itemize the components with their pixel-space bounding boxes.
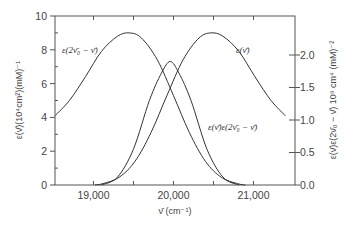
y-left-axis-title: ε(ν̄)(10⁴cm²)(mM)⁻¹ xyxy=(14,61,24,139)
xtick-label: 20,000 xyxy=(157,189,189,201)
annotation-mirror-absorption: ε(2ν̄₀ − ν̄) xyxy=(62,45,98,55)
chart-canvas: 0 2 4 6 8 10 0.0 0.5 1.0 1.5 2.0 19,000 … xyxy=(0,0,348,227)
y-left-ticks xyxy=(50,16,58,185)
ytick-right-label: 1.5 xyxy=(300,81,315,93)
ytick-label: 6 xyxy=(41,78,47,90)
ytick-right-label: 0.0 xyxy=(300,179,315,191)
y-left-tick-labels: 0 2 4 6 8 10 xyxy=(35,10,47,191)
x-tick-labels: 19,000 20,000 21,000 xyxy=(77,189,269,201)
series-absorption-curve xyxy=(95,33,285,185)
y-right-axis-title: ε(ν̄)ε(2ν̄₀ − ν̄) 10⁹ cm⁴ (mM)⁻² xyxy=(328,41,338,160)
ytick-label: 10 xyxy=(35,10,47,22)
xtick-label: 19,000 xyxy=(77,189,109,201)
annotation-absorption: ε(ν̄) xyxy=(236,45,250,55)
ytick-label: 8 xyxy=(41,44,47,56)
plot-frame xyxy=(55,16,295,185)
ytick-right-label: 1.0 xyxy=(300,114,315,126)
ytick-label: 0 xyxy=(41,179,47,191)
y-right-tick-labels: 0.0 0.5 1.0 1.5 2.0 xyxy=(300,49,315,191)
x-axis-title: ν̄ (cm⁻¹) xyxy=(159,206,192,216)
ytick-right-label: 0.5 xyxy=(300,146,315,158)
ytick-right-label: 2.0 xyxy=(300,49,315,61)
curves xyxy=(55,33,285,185)
series-mirror-absorption-curve xyxy=(55,33,245,185)
annotation-product: ε(ν̄)ε(2ν̄₀ − ν̄) xyxy=(208,122,257,132)
ytick-label: 4 xyxy=(41,111,47,123)
xtick-label: 21,000 xyxy=(237,189,269,201)
ytick-label: 2 xyxy=(41,145,47,157)
